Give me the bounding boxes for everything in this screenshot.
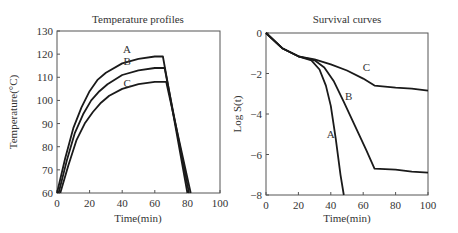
y-tick-label: 110 bbox=[37, 71, 54, 83]
x-tick-label: 20 bbox=[84, 197, 96, 209]
chart-title: Temperature profiles bbox=[92, 13, 184, 25]
series-line-a bbox=[57, 57, 187, 194]
y-axis-label: Temperature(°C) bbox=[7, 74, 20, 149]
y-tick-label: 120 bbox=[37, 48, 54, 60]
x-tick-label: 0 bbox=[54, 197, 60, 209]
temperature-profiles-chart: Temperature profiles 6070809010011012013… bbox=[7, 13, 229, 225]
series-label-a: A bbox=[327, 128, 335, 140]
x-tick-label: 100 bbox=[212, 197, 229, 209]
series-label-a: A bbox=[123, 43, 131, 55]
x-axis-label: Time(min) bbox=[323, 212, 371, 225]
x-tick-label: 60 bbox=[358, 199, 370, 211]
series-label-c: C bbox=[123, 77, 130, 89]
series-line-b bbox=[266, 33, 428, 173]
y-axis-label: Log S(t) bbox=[231, 95, 244, 132]
y-tick-label: 90 bbox=[42, 118, 54, 130]
survival-curves-chart: Survival curves 0−2−4−6−8 020406080100 A… bbox=[231, 13, 437, 225]
y-tick-label: 60 bbox=[42, 187, 54, 199]
series-label-b: B bbox=[123, 55, 130, 67]
x-axis-label: Time(min) bbox=[114, 212, 162, 225]
y-tick-label: 0 bbox=[257, 27, 263, 39]
plot-frame bbox=[57, 31, 220, 193]
y-tick-label: 70 bbox=[42, 164, 54, 176]
y-tick-label: −2 bbox=[250, 68, 262, 80]
series-line-c bbox=[266, 33, 428, 91]
x-tick-label: 0 bbox=[263, 199, 269, 211]
x-tick-label: 80 bbox=[182, 197, 194, 209]
y-tick-label: 100 bbox=[37, 94, 54, 106]
series-lines: ABC bbox=[266, 33, 428, 195]
y-tick-label: 80 bbox=[42, 141, 54, 153]
series-lines: ABC bbox=[57, 43, 191, 193]
x-tick-label: 40 bbox=[325, 199, 337, 211]
chart-title: Survival curves bbox=[313, 13, 382, 25]
x-tick-label: 60 bbox=[149, 197, 161, 209]
x-tick-label: 20 bbox=[293, 199, 305, 211]
y-tick-label: −8 bbox=[250, 189, 262, 201]
series-label-c: C bbox=[363, 61, 370, 73]
x-tick-label: 40 bbox=[117, 197, 129, 209]
y-tick-label: 130 bbox=[37, 25, 54, 37]
x-tick-label: 100 bbox=[420, 199, 437, 211]
charts-figure: Temperature profiles 6070809010011012013… bbox=[0, 0, 458, 233]
y-tick-labels: 60708090100110120130 bbox=[37, 25, 61, 199]
y-tick-label: −6 bbox=[250, 149, 262, 161]
x-tick-label: 80 bbox=[390, 199, 402, 211]
y-tick-label: −4 bbox=[250, 108, 262, 120]
series-label-b: B bbox=[345, 90, 352, 102]
